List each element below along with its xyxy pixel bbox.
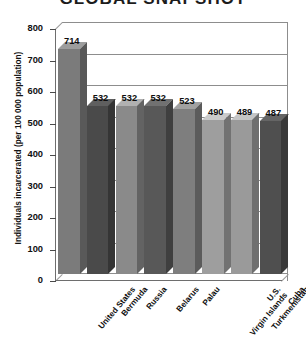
y-axis-tick (50, 92, 56, 93)
bar-front-face (202, 120, 224, 274)
y-axis-tick-label: 100 (0, 245, 43, 254)
bar-front-face (116, 106, 138, 274)
y-axis-tick (50, 155, 56, 156)
bar (202, 120, 224, 274)
bar-side-face (80, 42, 87, 274)
bar-side-face (224, 113, 231, 274)
bar-front-face (260, 121, 282, 274)
bar-value-label: 489 (234, 108, 256, 117)
bar-front-face (231, 120, 253, 274)
bar-side-face (195, 102, 202, 274)
bar-side-face (252, 113, 259, 274)
bar-front-face (173, 109, 195, 274)
y-axis-tick (50, 218, 56, 219)
plot-area: 8007006005004003002001000 71453253253252… (55, 22, 288, 281)
y-axis-tick-label: 700 (0, 56, 43, 65)
bar-side-face (166, 99, 173, 274)
bar-value-label: 487 (263, 109, 285, 118)
bar-value-label: 532 (147, 94, 169, 103)
chart-title: GLOBAL SNAPSHOT (0, 0, 306, 8)
y-axis-tick (50, 124, 56, 125)
bar (58, 49, 80, 274)
y-axis-tick-label: 200 (0, 213, 43, 222)
y-axis-tick (50, 29, 56, 30)
bar-front-face (58, 49, 80, 274)
y-axis-tick-label: 800 (0, 24, 43, 33)
chart-figure: GLOBAL SNAPSHOT Individuals incarcerated… (0, 0, 306, 359)
bar-side-face (108, 99, 115, 274)
x-axis-category-label: Palau (201, 285, 222, 308)
bar-value-label: 714 (61, 37, 83, 46)
bar-side-face (281, 114, 288, 274)
y-axis-tick (50, 187, 56, 188)
x-axis-line (55, 280, 282, 281)
bar (231, 120, 253, 274)
bar (116, 106, 138, 274)
y-axis-tick (50, 281, 56, 282)
gridline (62, 54, 288, 55)
y-axis-tick-label: 300 (0, 182, 43, 191)
y-axis-tick-label: 400 (0, 150, 43, 159)
y-axis-tick (50, 250, 56, 251)
y-axis-tick-label: 500 (0, 119, 43, 128)
bar (173, 109, 195, 274)
bar (260, 121, 282, 274)
x-axis-category-label: Belarus (175, 285, 201, 314)
bar (87, 106, 109, 274)
bar-value-label: 532 (90, 94, 112, 103)
bar-front-face (144, 106, 166, 274)
y-axis-tick-label: 0 (0, 276, 43, 285)
bar-value-label: 532 (119, 94, 141, 103)
bar (144, 106, 166, 274)
gridline (62, 85, 288, 86)
bar-value-label: 523 (176, 97, 198, 106)
y-axis-tick (50, 61, 56, 62)
bar-side-face (137, 99, 144, 274)
bar-value-label: 490 (205, 108, 227, 117)
y-axis-tick-label: 600 (0, 87, 43, 96)
bar-front-face (87, 106, 109, 274)
gridline (62, 22, 288, 23)
